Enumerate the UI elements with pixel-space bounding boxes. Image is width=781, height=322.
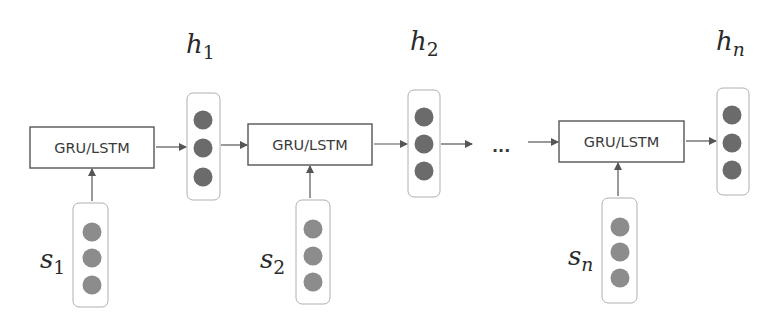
input-vector-2 (296, 200, 330, 304)
hidden-vector-2 (408, 90, 440, 197)
hidden-label-h2: h2 (410, 26, 439, 60)
input-vector-2-node-1 (304, 220, 323, 239)
hidden-vector-n-node-2 (723, 134, 742, 153)
hidden-vector-1 (187, 93, 220, 200)
hidden-label-hn: hn (716, 26, 745, 60)
input-label-s1: s1 (40, 244, 65, 278)
rnn-cell-1: GRU/LSTMs1h1 (30, 29, 220, 307)
gru-lstm-label: GRU/LSTM (584, 134, 659, 150)
hidden-vector-1-node-2 (194, 139, 213, 158)
input-vector-n-node-3 (611, 269, 630, 288)
gru-lstm-label: GRU/LSTM (54, 140, 129, 156)
input-vector-2-node-3 (304, 273, 323, 292)
hidden-vector-n (717, 88, 749, 195)
input-label-s2: s2 (260, 244, 285, 278)
hidden-vector-2-node-1 (415, 108, 434, 127)
input-vector-2-node-2 (304, 247, 323, 266)
hidden-vector-2-node-2 (415, 135, 434, 154)
hidden-vector-1-node-1 (194, 111, 213, 130)
input-label-sn: sn (568, 241, 593, 275)
diagram-svg: GRU/LSTMs1h1GRU/LSTMs2h2GRU/LSTMsnhn ... (0, 0, 781, 322)
input-vector-1-node-3 (83, 276, 102, 295)
rnn-cell-2: GRU/LSTMs2h2 (248, 26, 440, 304)
cells-group: GRU/LSTMs1h1GRU/LSTMs2h2GRU/LSTMsnhn (30, 26, 749, 307)
rnn-diagram: GRU/LSTMs1h1GRU/LSTMs2h2GRU/LSTMsnhn ... (0, 0, 781, 322)
gru-lstm-label: GRU/LSTM (272, 137, 347, 153)
input-vector-1-node-1 (83, 223, 102, 242)
input-vector-n-node-2 (611, 243, 630, 262)
input-vector-n (602, 198, 637, 303)
hidden-vector-2-node-3 (415, 162, 434, 181)
input-vector-n-node-1 (611, 218, 630, 237)
hidden-vector-n-node-1 (723, 106, 742, 125)
rnn-cell-3: GRU/LSTMsnhn (559, 26, 749, 303)
hidden-vector-1-node-3 (194, 168, 213, 187)
hidden-vector-n-node-3 (723, 161, 742, 180)
input-vector-1-node-2 (83, 249, 102, 268)
ellipsis: ... (492, 137, 510, 156)
input-vector-1 (73, 203, 108, 307)
hidden-label-h1: h1 (186, 29, 215, 63)
